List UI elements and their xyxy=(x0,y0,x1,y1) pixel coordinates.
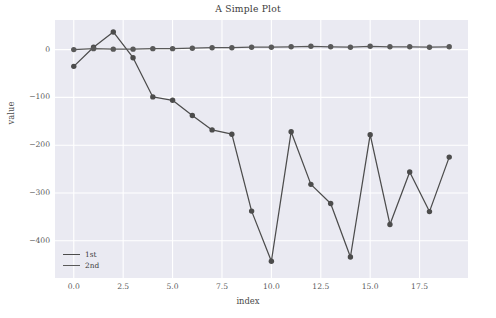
x-tick-label: 17.5 xyxy=(400,282,440,291)
data-point xyxy=(71,64,76,69)
data-point xyxy=(111,46,116,51)
data-point xyxy=(387,222,392,227)
data-point xyxy=(209,127,214,132)
data-point xyxy=(427,45,432,50)
data-point xyxy=(367,44,372,49)
data-point xyxy=(367,132,372,137)
chart-title: A Simple Plot xyxy=(0,3,496,14)
data-point xyxy=(170,46,175,51)
data-point xyxy=(91,46,96,51)
data-point xyxy=(387,44,392,49)
data-point xyxy=(249,208,254,213)
data-point xyxy=(427,209,432,214)
data-point xyxy=(308,44,313,49)
y-tick-label: −400 xyxy=(8,236,50,245)
data-point xyxy=(229,131,234,136)
legend-label: 1st xyxy=(85,249,96,260)
plot-axes-area xyxy=(55,20,468,278)
data-point xyxy=(348,254,353,259)
data-point xyxy=(190,45,195,50)
data-point xyxy=(288,129,293,134)
data-point xyxy=(447,44,452,49)
x-tick-label: 0.0 xyxy=(54,282,94,291)
data-point xyxy=(130,46,135,51)
data-point xyxy=(407,44,412,49)
y-tick-label: −300 xyxy=(8,188,50,197)
data-point xyxy=(190,113,195,118)
data-point xyxy=(71,47,76,52)
y-tick-label: 0 xyxy=(8,45,50,54)
data-point xyxy=(328,201,333,206)
x-tick-label: 15.0 xyxy=(350,282,390,291)
data-point xyxy=(328,44,333,49)
legend-label: 2nd xyxy=(85,260,99,271)
y-tick-label: −200 xyxy=(8,140,50,149)
data-point xyxy=(229,45,234,50)
data-point xyxy=(111,29,116,34)
data-point xyxy=(407,169,412,174)
legend-line-swatch-1st xyxy=(63,254,80,255)
data-point xyxy=(209,45,214,50)
data-series-layer xyxy=(55,20,468,278)
data-point xyxy=(269,259,274,264)
legend-line-swatch-2nd xyxy=(63,265,80,266)
x-tick-label: 7.5 xyxy=(202,282,242,291)
data-point xyxy=(170,98,175,103)
x-tick-label: 5.0 xyxy=(153,282,193,291)
series-line-2nd xyxy=(74,46,449,49)
data-point xyxy=(249,45,254,50)
x-tick-label: 2.5 xyxy=(103,282,143,291)
data-point xyxy=(308,182,313,187)
y-tick-label: −100 xyxy=(8,92,50,101)
x-tick-label: 12.5 xyxy=(301,282,341,291)
series-line-1st xyxy=(74,32,449,261)
chart-legend: 1st 2nd xyxy=(60,247,118,273)
chart-figure: A Simple Plot value index 0.02.55.07.510… xyxy=(0,0,496,318)
x-tick-label: 10.0 xyxy=(251,282,291,291)
data-point xyxy=(269,45,274,50)
data-point xyxy=(288,44,293,49)
legend-item[interactable]: 2nd xyxy=(63,260,115,271)
data-point xyxy=(130,55,135,60)
x-axis-label: index xyxy=(0,296,496,306)
legend-item[interactable]: 1st xyxy=(63,249,115,260)
data-point xyxy=(150,94,155,99)
data-point xyxy=(348,45,353,50)
data-point xyxy=(150,46,155,51)
data-point xyxy=(447,154,452,159)
